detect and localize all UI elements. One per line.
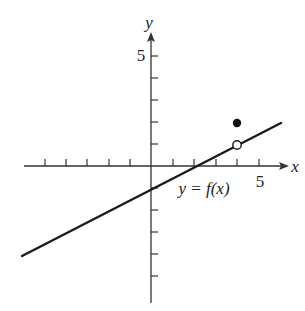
y-axis-label: y: [143, 13, 153, 32]
x-ticks: [45, 159, 259, 166]
function-label: y = f(x): [176, 179, 229, 198]
open-point-marker: [233, 141, 241, 149]
y-tick-label-5: 5: [137, 46, 146, 65]
function-graph: y x 5 5 y = f(x): [0, 0, 305, 311]
x-tick-label-5: 5: [256, 172, 265, 191]
x-axis-label: x: [290, 157, 299, 176]
filled-point-marker: [233, 119, 241, 127]
